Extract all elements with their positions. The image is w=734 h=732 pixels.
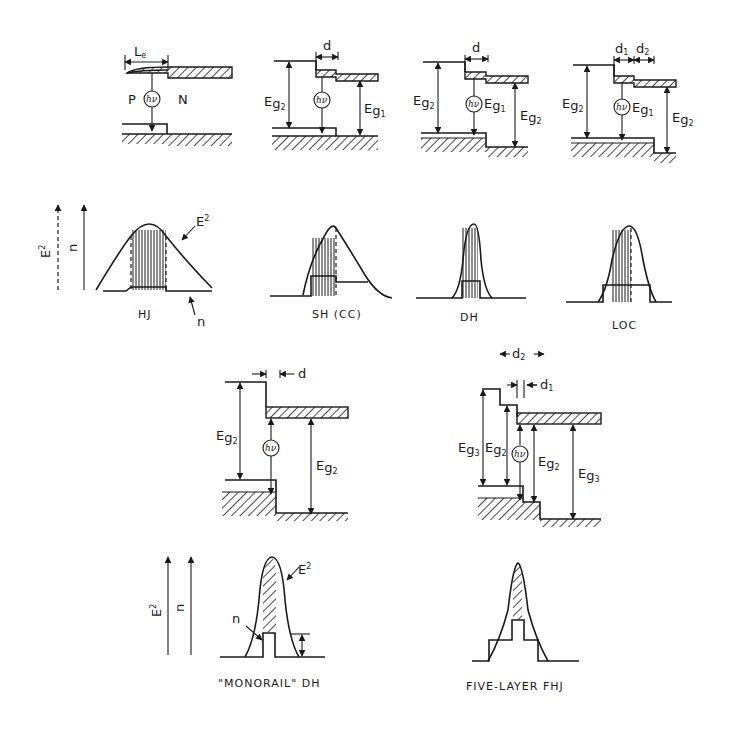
svg-text:hν: hν (616, 102, 628, 112)
loc-band-diagram: d1 d2 Eg2 hν Eg1 Eg2 (562, 41, 694, 163)
svg-text:Eg2: Eg2 (520, 108, 542, 126)
svg-text:hν: hν (468, 99, 480, 109)
svg-text:n: n (197, 314, 205, 329)
svg-text:Eg3: Eg3 (578, 466, 600, 484)
svg-text:d2: d2 (512, 346, 525, 362)
loc-label: LOC (612, 319, 637, 332)
monorail-band-diagram: d Eg2 hν Eg2 (216, 366, 348, 521)
svg-text:Eg1: Eg1 (632, 100, 654, 118)
svg-text:hν: hν (146, 94, 158, 104)
svg-text:d: d (298, 366, 306, 381)
n-region-label: N (178, 92, 188, 107)
p-region-label: P (128, 92, 136, 107)
fhj-label: FIVE-LAYER FHJ (466, 680, 564, 693)
svg-text:n: n (172, 604, 187, 612)
svg-text:Eg1: Eg1 (364, 101, 386, 119)
bottom-axes: E2 n (149, 557, 191, 655)
dh-band-diagram: d Eg2 hν Eg1 Eg2 (413, 40, 542, 157)
svg-text:Eg2: Eg2 (485, 440, 507, 458)
svg-text:E2: E2 (149, 604, 164, 617)
svg-text:Eg2: Eg2 (413, 93, 435, 111)
svg-text:Eg1: Eg1 (484, 96, 506, 114)
svg-text:E2: E2 (298, 562, 311, 577)
svg-text:Eg2: Eg2 (562, 96, 584, 114)
monorail-profile: E2 n "MONORAIL" DH (218, 557, 325, 690)
svg-text:E2: E2 (38, 245, 53, 258)
svg-text:Eg2: Eg2 (538, 454, 560, 472)
hj-band-diagram: Le hν P N (122, 44, 232, 146)
svg-text:hν: hν (316, 95, 328, 105)
svg-text:n: n (65, 244, 80, 252)
svg-text:d: d (323, 38, 331, 53)
top-axes: E2 n (38, 205, 84, 290)
svg-text:d2: d2 (636, 41, 649, 57)
svg-text:d1: d1 (615, 41, 628, 57)
eg2-label: Eg2 (264, 94, 286, 112)
dh-label: DH (460, 311, 479, 324)
svg-text:Eg2: Eg2 (216, 428, 238, 446)
fhj-profile: FIVE-LAYER FHJ (466, 562, 579, 693)
svg-text:Eg2: Eg2 (316, 458, 338, 476)
hj-label: HJ (138, 308, 152, 321)
svg-text:hν: hν (514, 449, 526, 459)
monorail-label: "MONORAIL" DH (218, 677, 321, 690)
sh-band-diagram: d Eg2 hν Eg1 (264, 38, 386, 150)
svg-text:d1: d1 (540, 377, 553, 393)
sh-profile: SH (CC) (270, 226, 392, 321)
le-label: Le (134, 44, 146, 60)
fhj-band-diagram: d2 d1 Eg3 Eg2 hν Eg2 Eg3 (458, 346, 601, 527)
sh-label: SH (CC) (312, 308, 362, 321)
svg-text:d: d (472, 40, 480, 55)
svg-text:hν: hν (265, 443, 277, 453)
heterostructure-diagram: Le hν P N d Eg2 hν Eg1 (0, 0, 734, 732)
svg-text:Eg3: Eg3 (458, 440, 480, 458)
loc-profile: LOC (566, 226, 672, 332)
svg-text:n: n (232, 611, 240, 626)
dh-profile: DH (416, 224, 526, 324)
svg-text:Eg2: Eg2 (672, 110, 694, 128)
svg-text:E2: E2 (196, 214, 209, 229)
hj-profile: E2 n HJ (96, 214, 212, 329)
